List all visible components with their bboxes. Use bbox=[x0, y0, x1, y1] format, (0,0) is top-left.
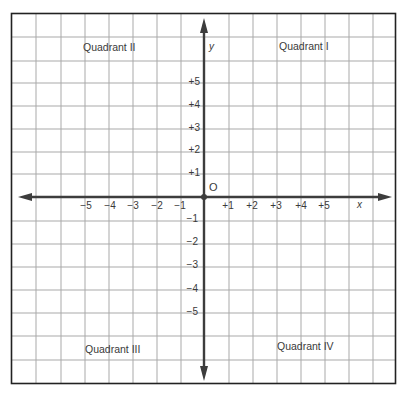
coordinate-plane bbox=[0, 0, 404, 397]
quadrant-iv-label: Quadrant IV bbox=[277, 341, 334, 352]
origin-point bbox=[201, 194, 207, 200]
quadrant-ii-label: Quadrant II bbox=[83, 42, 136, 53]
x-tick-label: +1 bbox=[222, 201, 233, 211]
x-axis-left-arrow-icon bbox=[18, 193, 32, 201]
y-tick-label: +2 bbox=[180, 145, 200, 155]
x-tick-label: −1 bbox=[174, 201, 185, 211]
y-tick-label: +5 bbox=[180, 77, 200, 87]
x-tick-label: +3 bbox=[270, 201, 281, 211]
x-tick-label: +2 bbox=[246, 201, 257, 211]
y-tick-label: −2 bbox=[178, 237, 198, 247]
y-axis-up-arrow-icon bbox=[200, 18, 208, 33]
x-tick-label: +5 bbox=[318, 201, 329, 211]
x-tick-label: +4 bbox=[295, 201, 306, 211]
x-axis-label: x bbox=[357, 200, 362, 210]
x-tick-label: −5 bbox=[80, 201, 91, 211]
origin-label: O bbox=[209, 182, 218, 193]
quadrant-iii-label: Quadrant III bbox=[85, 344, 140, 355]
x-tick-label: −4 bbox=[104, 201, 115, 211]
y-axis-down-arrow-icon bbox=[200, 366, 208, 381]
y-tick-label: −5 bbox=[178, 307, 198, 317]
x-tick-label: −2 bbox=[151, 201, 162, 211]
y-tick-label: +3 bbox=[180, 123, 200, 133]
y-tick-label: +1 bbox=[180, 168, 200, 178]
x-axis-right-arrow-icon bbox=[378, 193, 392, 201]
y-tick-label: −1 bbox=[178, 214, 198, 224]
quadrant-i-label: Quadrant I bbox=[279, 41, 329, 52]
x-tick-label: −3 bbox=[127, 201, 138, 211]
y-tick-label: −3 bbox=[178, 260, 198, 270]
y-axis-label: y bbox=[209, 42, 214, 52]
y-tick-label: −4 bbox=[178, 284, 198, 294]
y-tick-label: +4 bbox=[180, 100, 200, 110]
